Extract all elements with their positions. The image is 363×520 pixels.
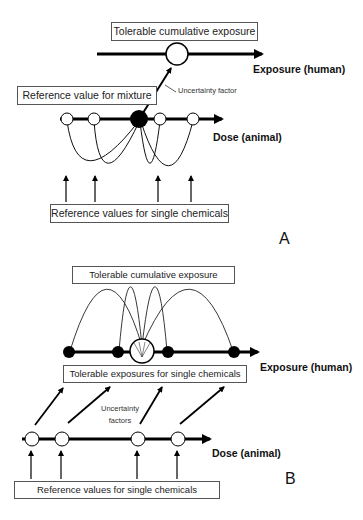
single-exposure-point bbox=[63, 346, 75, 358]
single-chemical-point bbox=[154, 113, 166, 125]
single-chemical-point bbox=[61, 113, 73, 125]
cumulative-arch-4 bbox=[142, 289, 233, 351]
single-chemical-point bbox=[25, 432, 39, 446]
animal-dose-label-a: Dose (animal) bbox=[213, 131, 282, 143]
single-exposure-point bbox=[112, 346, 124, 358]
uncertainty-arrow-b bbox=[35, 388, 63, 425]
single-chemical-point bbox=[131, 432, 145, 446]
uncertainty-arrow-b bbox=[140, 387, 162, 424]
panel-letter-a: A bbox=[279, 230, 290, 248]
uncertainty-factors-line1: Uncertainty bbox=[100, 403, 140, 415]
tolerable-cumulative-exposure-point-b bbox=[130, 339, 154, 363]
cumulative-arch-1 bbox=[70, 289, 142, 351]
single-chemical-point bbox=[171, 432, 185, 446]
single-exposure-point bbox=[228, 346, 240, 358]
animal-dose-label-b: Dose (animal) bbox=[212, 447, 281, 459]
uncertainty-factors-label-b: Uncertainty factors bbox=[100, 403, 140, 427]
uncertainty-factor-label-a: Uncertainty factor bbox=[178, 85, 237, 97]
reference-values-single-box-a: Reference values for single chemicals bbox=[50, 204, 229, 223]
tolerable-cumulative-exposure-box-a: Tolerable cumulative exposure bbox=[111, 22, 258, 41]
single-chemical-point bbox=[55, 432, 69, 446]
mixture-curve-1 bbox=[67, 121, 138, 161]
uncertainty-leader-line bbox=[165, 85, 176, 92]
uncertainty-arrow-b bbox=[180, 387, 224, 424]
mixture-curve-4 bbox=[141, 121, 193, 166]
single-chemical-point bbox=[187, 113, 199, 125]
reference-value-mixture-box: Reference value for mixture bbox=[17, 86, 157, 105]
diagram-canvas bbox=[0, 0, 363, 520]
panel-a-graphics bbox=[60, 43, 262, 202]
single-chemical-point bbox=[88, 113, 100, 125]
panel-letter-b: B bbox=[285, 470, 296, 488]
mixture-curve-2 bbox=[94, 121, 139, 163]
single-exposure-point bbox=[162, 346, 174, 358]
human-exposure-label-b: Exposure (human) bbox=[260, 361, 352, 373]
tolerable-cumulative-exposure-point-a bbox=[166, 43, 188, 65]
tolerable-cumulative-exposure-box-b: Tolerable cumulative exposure bbox=[72, 266, 235, 284]
mixture-reference-point bbox=[130, 110, 148, 128]
human-exposure-label-a: Exposure (human) bbox=[253, 63, 345, 75]
reference-values-single-box-b: Reference values for single chemicals bbox=[14, 481, 220, 499]
tolerable-exposures-single-box: Tolerable exposures for single chemicals bbox=[63, 365, 247, 383]
uncertainty-factors-line2: factors bbox=[100, 415, 140, 427]
